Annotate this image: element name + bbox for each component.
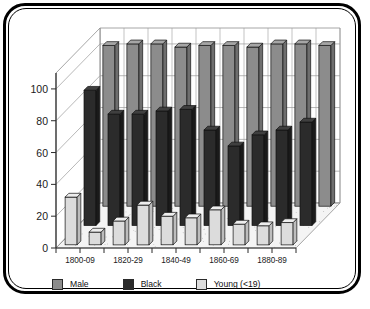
legend-swatch-black [123,279,134,290]
svg-text:0: 0 [42,242,48,254]
legend-item-black: Black [123,279,162,290]
bar-young-19--1830-39 [137,205,149,245]
bar-young-19--1840-49 [161,216,173,245]
legend-item-male: Male [52,279,89,290]
bar-young-19--1870-79 [233,224,245,245]
svg-text:1880-89: 1880-89 [257,256,287,265]
bar-young-19--1820-29 [113,221,125,245]
svg-text:40: 40 [36,178,48,190]
bar-male-1890-99 [319,46,331,207]
bar-black-1830-39 [156,111,168,226]
bar-black-1810-19 [108,114,120,225]
bar-black-1800-09 [84,90,96,225]
svg-text:1820-29: 1820-29 [113,256,143,265]
svg-text:1860-69: 1860-69 [209,256,239,265]
bar-black-1870-79 [252,135,264,226]
chart-figure: 0204060801001800-091820-291840-491860-69… [0,0,370,309]
legend-label-young: Young (<19) [214,279,261,289]
svg-text:1840-49: 1840-49 [161,256,191,265]
svg-text:80: 80 [36,115,48,127]
svg-text:1800-09: 1800-09 [65,256,95,265]
svg-text:60: 60 [36,147,48,159]
bar-black-1890-99 [300,122,312,225]
bar-black-1840-49 [180,109,192,225]
bar-young-19--1850-59 [185,218,197,245]
legend-swatch-young [196,279,207,290]
legend-label-black: Black [141,279,162,289]
bar-young-19--1810-19 [89,232,101,245]
bar-black-1880-89 [276,130,288,226]
bar-young-19--1880-89 [257,226,269,245]
svg-text:100: 100 [30,83,48,95]
bar-chart-3d-plot: 0204060801001800-091820-291840-491860-69… [0,0,370,309]
bar-young-19--1860-69 [209,210,221,245]
legend-label-male: Male [70,279,89,289]
legend-swatch-male [52,279,63,290]
bar-young-19--1890-99 [281,223,293,245]
bar-black-1860-69 [228,146,240,226]
svg-text:20: 20 [36,210,48,222]
bar-young-19--1800-09 [65,197,77,245]
legend-item-young: Young (<19) [196,279,261,290]
chart-legend: Male Black Young (<19) [52,276,332,292]
